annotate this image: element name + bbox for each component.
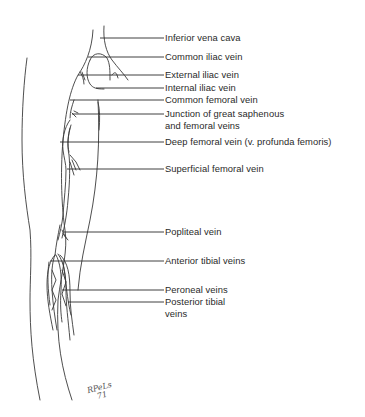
- label-popliteal-vein: Popliteal vein: [165, 226, 221, 237]
- label-posterior-tibial-line2: veins: [165, 308, 187, 319]
- common-iliac-vein: [90, 54, 110, 80]
- external-iliac-vein: [80, 72, 84, 84]
- label-saphenous-junction-line1: Junction of great saphenous: [165, 108, 284, 119]
- label-peroneal-veins: Peroneal veins: [165, 284, 228, 295]
- label-posterior-tibial-line1: Posterior tibial: [165, 296, 225, 307]
- calf-veins: [47, 254, 74, 340]
- leader-lines: [50, 38, 164, 302]
- label-internal-iliac-vein: Internal iliac vein: [165, 82, 236, 93]
- label-superficial-femoral-vein: Superficial femoral vein: [165, 163, 264, 174]
- common-femoral-vein: [70, 100, 74, 118]
- label-external-iliac-vein: External iliac vein: [165, 69, 239, 80]
- label-common-iliac-vein: Common iliac vein: [165, 51, 242, 62]
- label-inferior-vena-cava: Inferior vena cava: [165, 32, 240, 43]
- label-anterior-tibial-veins: Anterior tibial veins: [165, 255, 245, 266]
- label-deep-femoral-vein: Deep femoral vein (v. profunda femoris): [165, 136, 331, 147]
- inferior-vena-cava: [104, 26, 128, 80]
- leg-vein-diagram: [0, 0, 365, 417]
- label-common-femoral-vein: Common femoral vein: [165, 94, 258, 105]
- label-saphenous-junction-line2: and femoral veins: [165, 120, 240, 131]
- leg-outline-left: [22, 58, 40, 400]
- leg-outline-right: [78, 100, 99, 290]
